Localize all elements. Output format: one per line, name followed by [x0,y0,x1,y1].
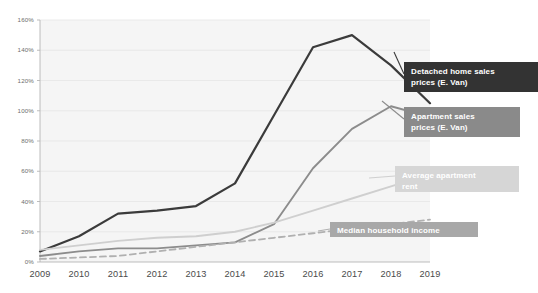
series-annotation-3[interactable]: Median household income [318,222,478,237]
y-axis-label-80: 80% [21,137,34,144]
annotation-label-2-line1: Average apartment [402,171,476,180]
y-axis-label-20: 20% [21,228,34,235]
y-axis-label-100: 100% [18,107,35,114]
y-axis-label-60: 60% [21,167,34,174]
x-axis-label-2019: 2019 [419,269,440,279]
chart-container: 0%20%40%60%80%100%120%140%160%2009201020… [0,0,538,293]
annotation-label-3-line1: Median household income [337,226,440,235]
x-axis-label-2012: 2012 [146,269,167,279]
x-axis-label-2014: 2014 [224,269,245,279]
annotation-label-0-line2: prices (E. Van) [411,78,468,87]
x-axis-label-2009: 2009 [29,269,50,279]
x-axis-label-2017: 2017 [341,269,362,279]
annotation-label-2-line2: rent [402,182,418,191]
y-axis-label-140: 140% [18,46,35,53]
y-axis-label-40: 40% [21,198,34,205]
annotation-label-1-line2: prices (E. Van) [411,123,468,132]
x-axis-label-2013: 2013 [185,269,206,279]
x-axis-label-2015: 2015 [263,269,284,279]
x-axis-label-2018: 2018 [380,269,401,279]
annotation-label-0-line1: Detached home sales [411,67,495,76]
x-axis-label-2016: 2016 [302,269,323,279]
annotation-label-1-line1: Apartment sales [411,112,475,121]
y-axis-label-120: 120% [18,77,35,84]
y-axis-label-0: 0% [25,258,35,265]
x-axis-label-2011: 2011 [108,269,129,279]
line-chart: 0%20%40%60%80%100%120%140%160%2009201020… [0,0,538,293]
y-axis-label-160: 160% [18,16,35,23]
x-axis-label-2010: 2010 [68,269,89,279]
